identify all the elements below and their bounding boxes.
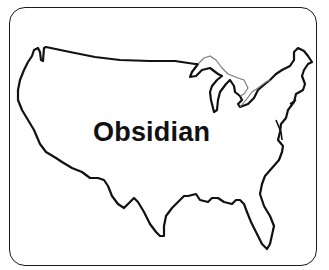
usa-outline — [18, 47, 312, 249]
great-lakes-outline — [198, 56, 270, 107]
map-label: Obsidian — [93, 117, 210, 148]
